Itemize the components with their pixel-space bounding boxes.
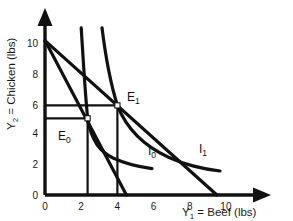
curve-label-i1: I1 — [199, 142, 207, 158]
x-axis-title-text: = Beef (lbs) — [194, 206, 256, 218]
point-label-e0-subscript: 0 — [66, 135, 71, 145]
y-tick-label-10: 10 — [27, 38, 39, 49]
point-label-e0-letter: E — [58, 129, 66, 143]
x-axis-arrowhead — [253, 188, 271, 203]
y-tick-labels-group: 0 2 4 6 8 10 — [27, 38, 39, 201]
y-axis-title: Y2 = Chicken (lbs) — [5, 37, 20, 130]
reference-lines-group — [45, 105, 117, 195]
x-tick-label-4: 4 — [115, 201, 121, 212]
point-label-e0: E0 — [58, 129, 71, 145]
y-tick-label-2: 2 — [32, 159, 38, 170]
x-tick-label-6: 6 — [151, 201, 157, 212]
indifference-curve-figure: 0 2 4 6 8 10 0 2 4 6 8 10 E1 E0 — [0, 0, 293, 221]
curve-label-i0-subscript: 0 — [151, 150, 156, 160]
y-axis-arrowhead — [38, 8, 53, 26]
y-tick-label-6: 6 — [32, 100, 38, 111]
point-label-e1-subscript: 1 — [135, 96, 140, 106]
point-label-e1: E1 — [127, 90, 140, 106]
point-label-e1-letter: E — [127, 90, 135, 104]
y-tick-label-4: 4 — [32, 128, 38, 139]
y-tick-label-0: 0 — [32, 190, 38, 201]
y-axis-title-text: = Chicken (lbs) — [5, 37, 17, 117]
curve-label-i1-subscript: 1 — [202, 148, 207, 158]
x-tick-label-0: 0 — [42, 201, 48, 212]
point-marker-e0 — [85, 116, 90, 121]
y-tick-label-8: 8 — [32, 69, 38, 80]
x-axis-title: Y1 = Beef (lbs) — [182, 206, 257, 221]
point-marker-e1 — [115, 103, 120, 108]
chart-canvas: 0 2 4 6 8 10 0 2 4 6 8 10 E1 E0 — [0, 0, 293, 221]
x-tick-label-2: 2 — [78, 201, 84, 212]
